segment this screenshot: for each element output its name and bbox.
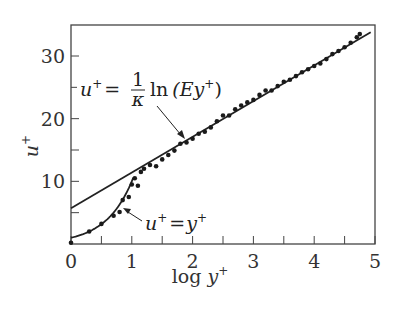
ann2-rhs: y (185, 212, 197, 234)
annotation-log-law: u+= 1 κ ln(Ey+) (77, 68, 222, 139)
y-tick-label: 10 (41, 170, 65, 192)
data-point (358, 32, 363, 37)
data-point (87, 229, 92, 234)
data-point (233, 107, 238, 112)
ann1-sup: + (92, 77, 102, 91)
ann2-lhs: u (145, 212, 157, 234)
ann1-arg: (Ey (172, 78, 204, 100)
data-point (275, 84, 280, 89)
data-point (130, 182, 135, 187)
data-point (330, 52, 335, 57)
x-tick-label: 0 (65, 250, 77, 272)
ann1-close: ) (214, 78, 221, 100)
data-point (306, 67, 311, 72)
data-point (203, 130, 208, 135)
y-axis-label: u+ (19, 135, 42, 157)
data-point (288, 78, 293, 83)
y-tick-label: 30 (41, 45, 65, 67)
svg-text:u+=y+: u+=y+ (145, 211, 207, 234)
ann2-rhs-sup: + (197, 211, 207, 225)
data-point (245, 100, 250, 105)
plot-frame (71, 25, 375, 244)
ann1-numerator: 1 (132, 68, 144, 90)
data-point (69, 240, 74, 245)
data-point (133, 176, 138, 181)
data-point (324, 57, 329, 62)
data-point (294, 74, 299, 79)
data-point (160, 157, 165, 162)
data-point (269, 88, 274, 93)
ann1-arrow (157, 106, 181, 135)
x-axis-label-log: log (172, 265, 208, 287)
data-point (336, 49, 341, 54)
x-tick-label: 3 (247, 250, 259, 272)
data-point (190, 136, 195, 141)
data-point (111, 214, 116, 219)
data-point (263, 88, 268, 93)
data-point (348, 41, 353, 46)
ann2-arrow (128, 212, 142, 221)
x-tick-label: 5 (369, 250, 381, 272)
data-point (184, 140, 189, 145)
data-point (99, 222, 104, 227)
data-point (221, 113, 226, 118)
data-point (318, 61, 323, 66)
x-axis-label-var: y (206, 265, 218, 287)
data-point (196, 131, 201, 136)
ann1-arg-sup: + (204, 77, 214, 91)
plot-border (71, 25, 375, 244)
data-point (342, 45, 347, 50)
data-point (178, 141, 183, 146)
y-axis-label-var: u (20, 145, 42, 157)
data-point (251, 98, 256, 103)
data-point (117, 210, 122, 215)
data-point (239, 103, 244, 108)
data-point (172, 148, 177, 153)
y-axis-label-sup: + (19, 135, 33, 145)
ann2-eq: = (169, 212, 185, 234)
ann1-denominator: κ (131, 88, 145, 110)
data-point (166, 153, 171, 158)
svg-text:ln(Ey+): ln(Ey+) (150, 77, 222, 100)
chart: 012345102030 log y+ u+ u+= 1 κ ln(Ey+) u… (0, 0, 398, 310)
viscous-sublayer-line (71, 178, 133, 238)
data-point (282, 79, 287, 84)
x-axis-label-sup: + (218, 264, 228, 278)
x-axis-label: log y+ (172, 264, 229, 287)
data-point (142, 167, 147, 172)
data-point (227, 113, 232, 118)
data-point (136, 183, 141, 188)
curves (71, 32, 371, 238)
y-tick-label: 20 (41, 108, 65, 130)
ann2-sup: + (157, 211, 167, 225)
data-point (312, 64, 317, 69)
data-point (154, 164, 159, 169)
ann1-ln: ln (150, 78, 168, 100)
data-point (215, 119, 220, 124)
data-point (120, 198, 125, 203)
x-tick-label: 4 (308, 250, 320, 272)
data-point (300, 70, 305, 75)
svg-text:u+=: u+= (80, 77, 120, 100)
annotation-sublayer: u+=y+ (123, 208, 207, 234)
ann1-eq: = (104, 78, 120, 100)
data-point (257, 93, 262, 98)
ann1-lhs: u (80, 78, 92, 100)
data-point (127, 195, 132, 200)
data-point (148, 163, 153, 168)
data-point (209, 125, 214, 130)
x-tick-label: 1 (126, 250, 138, 272)
